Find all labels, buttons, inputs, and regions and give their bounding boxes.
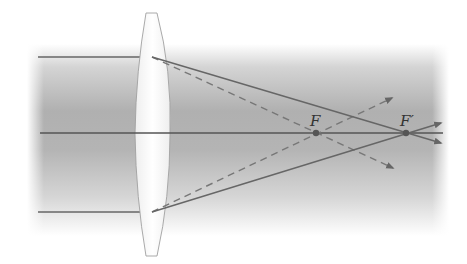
lens-diagram: F F′: [0, 0, 467, 264]
focal-point-f-prime-dot: [403, 130, 409, 136]
focal-point-f-label: F: [309, 112, 321, 130]
focal-point-f-dot: [313, 130, 319, 136]
focal-point-f-prime-label: F′: [399, 112, 414, 130]
